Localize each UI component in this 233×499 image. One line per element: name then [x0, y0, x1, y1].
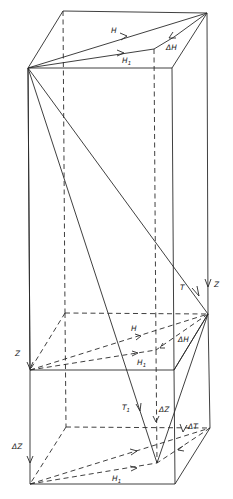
label-T: T	[180, 283, 186, 292]
label-dZ-left: ΔZ	[11, 442, 23, 451]
label-H1-mid: H1	[137, 358, 146, 368]
arrow-T-icon	[192, 286, 199, 296]
label-H1-top: H1	[122, 56, 131, 66]
label-dZ-center: ΔZ	[158, 405, 170, 414]
arrow-H-bottom-icon	[130, 449, 137, 455]
vector-T	[28, 68, 208, 314]
z-right: Z	[205, 279, 220, 289]
label-dT: ΔT	[187, 422, 199, 431]
vector-T1	[28, 68, 157, 463]
top-face-vectors: H H1 ΔH	[28, 13, 207, 68]
label-T1: T1	[122, 403, 130, 413]
arrow-H1-bottom-icon	[130, 466, 137, 471]
diagonals: T	[28, 68, 208, 463]
label-H-top: H	[111, 26, 117, 35]
prism-diagram: H H1 ΔH T Z H H1 ΔH Z	[0, 0, 233, 499]
label-dH-top: ΔH	[165, 43, 177, 52]
arrow-dH-top-icon	[169, 32, 176, 38]
arrow-dZ-center-icon	[153, 416, 159, 422]
label-Z-left: Z	[14, 349, 21, 358]
label-H-mid: H	[131, 324, 137, 333]
label-Z-right: Z	[213, 280, 220, 289]
label-dH-mid: ΔH	[177, 335, 189, 344]
label-H1-bottom: H1	[112, 474, 121, 484]
